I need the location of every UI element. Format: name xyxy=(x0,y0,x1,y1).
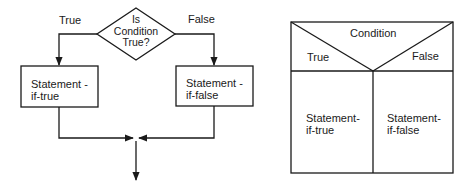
ns-outer-frame xyxy=(291,22,453,173)
decision-line-3: True? xyxy=(106,37,166,49)
true-branch-arrow xyxy=(59,34,97,65)
ns-false-cell-line-2: if-false xyxy=(387,124,441,136)
ns-true-cell-text: Statement- if-true xyxy=(306,112,360,136)
flowchart-false-label: False xyxy=(188,13,215,25)
ns-false-cell-text: Statement- if-false xyxy=(387,112,441,136)
ns-true-cell-line-1: Statement- xyxy=(306,112,360,124)
ns-false-cell-line-1: Statement- xyxy=(387,112,441,124)
ns-true-label: True xyxy=(307,51,329,63)
false-merge-arrow xyxy=(139,106,214,138)
true-box-line-2: if-true xyxy=(31,90,88,102)
decision-line-1: Is xyxy=(106,14,166,26)
decision-text: Is Condition True? xyxy=(106,14,166,49)
ns-true-cell-line-2: if-true xyxy=(306,124,360,136)
true-box-line-1: Statement - xyxy=(31,78,88,90)
ns-condition-label: Condition xyxy=(350,27,396,39)
ns-false-label: False xyxy=(412,50,439,62)
true-merge-arrow xyxy=(59,107,133,138)
statement-if-true-text: Statement - if-true xyxy=(31,78,88,102)
false-box-line-1: Statement - xyxy=(186,77,243,89)
statement-if-false-text: Statement - if-false xyxy=(186,77,243,101)
flowchart-true-label: True xyxy=(59,14,81,26)
false-box-line-2: if-false xyxy=(186,89,243,101)
false-branch-arrow xyxy=(175,34,214,65)
